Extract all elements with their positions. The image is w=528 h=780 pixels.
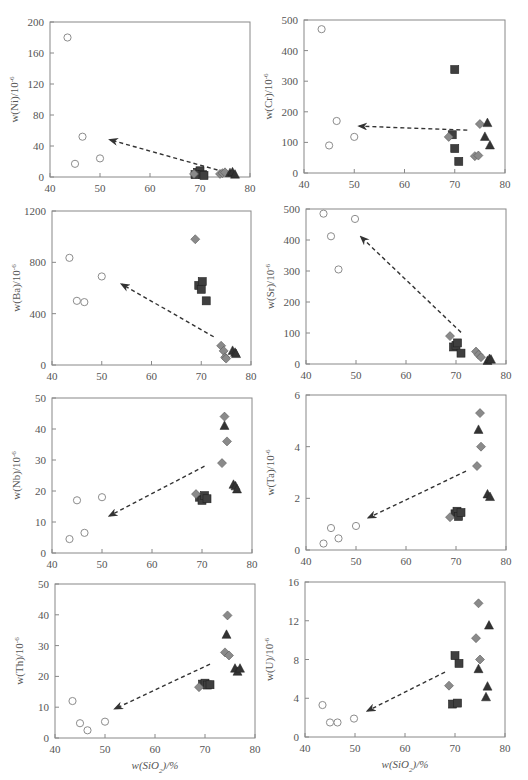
- x-tick-label: 70: [451, 369, 463, 381]
- geochemistry-figure: 405060708004080120160200w(Ni)/10-6405060…: [0, 0, 528, 780]
- y-tick-label: 300: [282, 75, 299, 87]
- square-marker: [455, 659, 463, 667]
- series-circle: [319, 701, 358, 726]
- y-tick-label: 40: [38, 609, 50, 621]
- x-tick-label: 70: [450, 742, 462, 754]
- circle-marker: [76, 720, 83, 727]
- x-tick-label: 50: [95, 182, 107, 194]
- y-tick-label: 100: [284, 327, 301, 339]
- x-tick-label: 40: [301, 369, 313, 381]
- circle-marker: [73, 297, 80, 304]
- x-tick-label: 70: [449, 178, 461, 190]
- x-tick-label: 80: [246, 370, 258, 382]
- x-tick-label: 40: [50, 743, 62, 755]
- chart-panel-nb: 405060708001020304050w(Nb)/10-6: [10, 392, 258, 570]
- series-circle: [66, 494, 106, 543]
- series-diamond: [446, 409, 486, 522]
- circle-marker: [84, 727, 91, 734]
- y-tick-label: 500: [282, 14, 299, 26]
- x-tick-label: 60: [145, 182, 157, 194]
- square-marker: [198, 278, 206, 286]
- diamond-marker: [476, 409, 485, 418]
- diamond-marker: [473, 462, 482, 471]
- plot-frame: [305, 582, 505, 737]
- y-axis-label: w(Nb)/10-6: [10, 451, 23, 500]
- diamond-marker: [445, 681, 454, 690]
- y-tick-label: 200: [284, 296, 301, 308]
- trend-arrow: [110, 140, 218, 170]
- diamond-marker: [191, 235, 200, 244]
- y-tick-label: 2: [295, 492, 301, 504]
- y-axis-label: w(U)/10-6: [263, 637, 276, 681]
- circle-marker: [66, 535, 73, 542]
- square-marker: [202, 297, 210, 305]
- square-marker: [454, 339, 462, 347]
- triangle-marker: [222, 630, 231, 639]
- y-tick-label: 120: [28, 78, 45, 90]
- chart-panel-ni: 405060708004080120160200w(Ni)/10-6: [8, 16, 256, 194]
- chart-panel-ba: 405060708004008001200w(Ba)/10-6: [10, 205, 257, 382]
- circle-marker: [326, 719, 333, 726]
- y-tick-label: 100: [282, 136, 299, 148]
- x-tick-label: 80: [247, 558, 259, 570]
- series-triangle: [228, 346, 240, 358]
- y-tick-label: 40: [35, 423, 47, 435]
- series-diamond: [444, 120, 484, 161]
- y-tick-label: 200: [28, 16, 45, 28]
- y-tick-label: 4: [295, 441, 301, 453]
- y-axis-label: w(Th)/10-6: [13, 637, 26, 685]
- triangle-marker: [482, 692, 491, 701]
- chart-panel-cr: 40506070800100200300400500w(Cr)/10-6: [262, 14, 511, 190]
- plot-frame: [304, 20, 505, 173]
- y-tick-label: 6: [295, 389, 301, 401]
- circle-marker: [98, 273, 105, 280]
- series-circle: [66, 254, 106, 305]
- square-marker: [451, 66, 459, 74]
- chart-panel-sr: 40506070800100200300400500w(Sr)/10-6: [264, 203, 512, 381]
- y-tick-label: 0: [295, 544, 301, 556]
- square-marker: [454, 699, 462, 707]
- x-tick-label: 40: [47, 370, 59, 382]
- triangle-marker: [485, 140, 494, 149]
- circle-marker: [98, 494, 105, 501]
- y-tick-label: 0: [44, 732, 50, 744]
- circle-marker: [351, 133, 358, 140]
- diamond-marker: [477, 442, 486, 451]
- triangle-marker: [474, 425, 483, 434]
- series-circle: [320, 522, 360, 547]
- y-tick-label: 80: [33, 109, 45, 121]
- x-tick-label: 50: [350, 742, 362, 754]
- y-tick-label: 0: [293, 167, 299, 179]
- series-square: [195, 278, 210, 305]
- y-tick-label: 10: [38, 701, 50, 713]
- y-tick-label: 10: [35, 516, 47, 528]
- chart-panel-u: 40506070800481216w(U)/10-6w(SiO2)/%: [263, 576, 511, 774]
- square-marker: [197, 285, 205, 293]
- y-tick-label: 0: [41, 359, 47, 371]
- circle-marker: [69, 697, 76, 704]
- trend-arrow: [359, 126, 467, 130]
- x-tick-label: 80: [500, 742, 512, 754]
- y-tick-label: 800: [30, 256, 47, 268]
- circle-marker: [327, 524, 334, 531]
- y-tick-label: 50: [38, 578, 50, 590]
- x-tick-label: 70: [200, 743, 212, 755]
- diamond-marker: [475, 120, 484, 129]
- x-tick-label: 60: [401, 555, 413, 567]
- trend-arrow: [110, 466, 205, 516]
- y-axis-label: w(Cr)/10-6: [262, 73, 275, 120]
- plot-frame: [306, 209, 506, 364]
- x-tick-label: 50: [351, 369, 363, 381]
- series-square: [450, 339, 466, 357]
- triangle-marker: [483, 118, 492, 127]
- plot-frame: [55, 584, 255, 738]
- circle-marker: [320, 540, 327, 547]
- series-triangle: [220, 421, 242, 493]
- y-tick-label: 400: [282, 45, 299, 57]
- x-tick-label: 60: [399, 178, 411, 190]
- diamond-marker: [472, 634, 481, 643]
- y-tick-label: 20: [35, 485, 47, 497]
- circle-marker: [319, 701, 326, 708]
- diamond-marker: [223, 437, 232, 446]
- plot-frame: [306, 395, 506, 550]
